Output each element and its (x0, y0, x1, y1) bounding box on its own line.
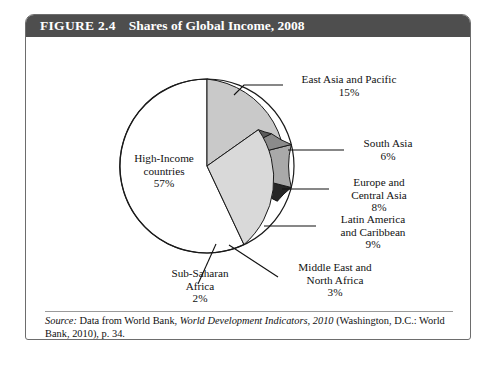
pie-label-east-asia-pacific-line1: East Asia and Pacific (302, 73, 397, 85)
pie-label-sub-saharan-africa-line1: Sub-Saharan (171, 267, 228, 279)
pie-label-south-asia-percent: 6% (346, 150, 430, 163)
pie-label-latin-america-caribbean-line1: Latin America (341, 213, 405, 225)
pie-label-europe-central-asia-line2: Central Asia (351, 189, 407, 201)
figure-container: FIGURE 2.4 Shares of Global Income, 2008 (25, 14, 471, 340)
pie-label-middle-east-north-africa-percent: 3% (277, 286, 393, 299)
pie-label-east-asia-pacific: East Asia and Pacific 15% (284, 73, 414, 98)
pie-label-sub-saharan-africa: Sub-Saharan Africa 2% (145, 267, 255, 305)
pie-label-latin-america-caribbean-percent: 9% (318, 238, 428, 251)
pie-label-high-income-line2: countries (143, 165, 184, 177)
pie-label-europe-central-asia: Europe and Central Asia 8% (331, 176, 427, 214)
pie-label-high-income-percent: 57% (114, 177, 214, 190)
pie-label-latin-america-caribbean: Latin America and Caribbean 9% (318, 213, 428, 251)
pie-label-latin-america-caribbean-line2: and Caribbean (341, 226, 406, 238)
pie-label-south-asia: South Asia 6% (346, 137, 430, 162)
source-divider (45, 311, 453, 312)
pie-label-high-income: High-Income countries 57% (114, 152, 214, 190)
pie-label-middle-east-north-africa: Middle East and North Africa 3% (277, 261, 393, 299)
pie-label-middle-east-north-africa-line1: Middle East and (298, 261, 371, 273)
figure-header: FIGURE 2.4 Shares of Global Income, 2008 (26, 15, 470, 37)
pie-chart-area: High-Income countries 57% East Asia and … (26, 37, 470, 309)
source-publication-title: World Development Indicators, 2010 (180, 315, 334, 326)
pie-label-high-income-line1: High-Income (134, 152, 194, 164)
pie-label-east-asia-pacific-percent: 15% (284, 86, 414, 99)
pie-label-south-asia-line1: South Asia (364, 137, 413, 149)
pie-label-europe-central-asia-percent: 8% (331, 201, 427, 214)
source-note: Source: Data from World Bank, World Deve… (45, 315, 453, 340)
pie-label-sub-saharan-africa-percent: 2% (145, 292, 255, 305)
pie-label-europe-central-asia-line1: Europe and (353, 176, 404, 188)
pie-label-sub-saharan-africa-line2: Africa (186, 280, 215, 292)
pie-label-middle-east-north-africa-line2: North Africa (307, 274, 364, 286)
source-label: Source: (45, 315, 77, 326)
figure-title: Shares of Global Income, 2008 (129, 18, 305, 34)
source-text-before: Data from World Bank, (77, 315, 180, 326)
figure-number: FIGURE 2.4 (40, 18, 116, 34)
